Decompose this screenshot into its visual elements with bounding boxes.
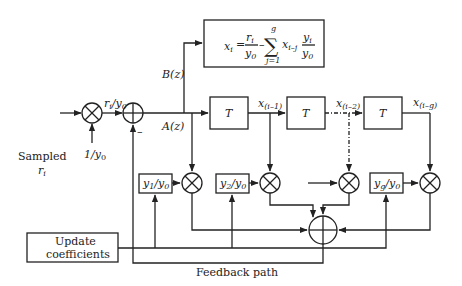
svg-text:g: g [271, 24, 276, 33]
update-label-2: coefficients [46, 248, 110, 261]
feedback-path [133, 125, 323, 263]
minus-sign: – [137, 125, 143, 138]
accumulator-summer [309, 216, 337, 244]
b-label: B(z) [161, 68, 184, 81]
tap-multiplier-2 [260, 173, 280, 193]
feedback-label: Feedback path [196, 266, 278, 279]
block-diagram: Sampled ri 1/y0 ri/y0 – B(z) A(z) xi = r… [0, 0, 462, 286]
input-multiplier [82, 103, 102, 123]
a-label: A(z) [161, 120, 184, 133]
normalized-label: ri/y0 [104, 97, 127, 111]
update-label-1: Update [55, 235, 96, 248]
update-bus [118, 195, 386, 248]
tap-multiplier-3 [339, 173, 359, 193]
svg-text:=: = [236, 38, 245, 51]
delay-output-g: x(i–g) [413, 96, 437, 110]
svg-text:∑: ∑ [264, 34, 279, 58]
svg-text:j=1: j=1 [264, 56, 280, 65]
product-path-2 [270, 193, 313, 217]
product-path-3 [323, 193, 349, 214]
scale-label: 1/y0 [84, 148, 106, 162]
tap-multiplier-1 [182, 173, 202, 193]
product-path-g [339, 193, 430, 230]
signal-b-arrow [184, 43, 202, 113]
tap-multiplier-g [420, 173, 440, 193]
product-path-1 [192, 193, 307, 230]
input-symbol: ri [38, 164, 46, 178]
input-label: Sampled [18, 150, 67, 163]
delay-output-2: x(i–2) [336, 97, 360, 111]
delay-output-1: x(i–1) [258, 97, 282, 111]
